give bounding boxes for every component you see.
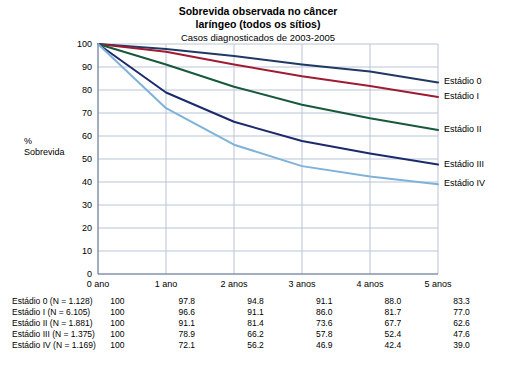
table-cell: 81.7 [379, 307, 448, 318]
plot-area-wrapper: 01020304050607080901000 ano1 ano2 anos3 … [0, 0, 516, 300]
series-label: Estádio 0 [444, 76, 482, 86]
y-tick-label: 70 [82, 108, 92, 118]
x-tick-label: 5 anos [424, 279, 452, 289]
x-tick-label: 3 anos [288, 279, 316, 289]
table-cell: 100 [104, 340, 172, 351]
x-tick-label: 0 ano [87, 279, 110, 289]
table-row: Estádio 0 (N = 1.128)10097.894.891.188.0… [10, 296, 516, 307]
series-label: Estádio IV [444, 178, 485, 188]
table-cell: 73.6 [310, 318, 379, 329]
table-cell: 91.1 [173, 318, 242, 329]
y-tick-label: 40 [82, 177, 92, 187]
series-line [98, 44, 438, 184]
y-tick-label: 10 [82, 246, 92, 256]
y-tick-label: 30 [82, 200, 92, 210]
table-row: Estádio II (N = 1.881)10091.181.473.667.… [10, 318, 516, 329]
table-row: Estádio IV (N = 1.169)10072.156.246.942.… [10, 340, 516, 351]
table-cell: 81.4 [241, 318, 310, 329]
table-cell: 97.8 [173, 296, 242, 307]
y-tick-label: 20 [82, 223, 92, 233]
table-cell: 46.9 [310, 340, 379, 351]
series-line [98, 44, 438, 130]
x-tick-label: 4 anos [356, 279, 384, 289]
table-row-label: Estádio II (N = 1.881) [10, 318, 104, 329]
y-tick-label: 60 [82, 131, 92, 141]
series-line [98, 44, 438, 97]
table-cell: 57.8 [310, 329, 379, 340]
table-cell: 47.6 [447, 329, 516, 340]
y-tick-label: 100 [77, 39, 92, 49]
table-cell: 94.8 [241, 296, 310, 307]
table-cell: 66.2 [241, 329, 310, 340]
table-cell: 88.0 [379, 296, 448, 307]
table-cell: 62.6 [447, 318, 516, 329]
series-label: Estádio III [444, 159, 484, 169]
chart-figure: Sobrevida observada no câncer laríngeo (… [0, 0, 516, 374]
table-row: Estádio III (N = 1.375)10078.966.257.852… [10, 329, 516, 340]
table-cell: 72.1 [173, 340, 242, 351]
table-row-label: Estádio IV (N = 1.169) [10, 340, 104, 351]
table-cell: 52.4 [379, 329, 448, 340]
table-cell: 42.4 [379, 340, 448, 351]
table-cell: 39.0 [447, 340, 516, 351]
table-cell: 77.0 [447, 307, 516, 318]
table-cell: 67.7 [379, 318, 448, 329]
table-cell: 83.3 [447, 296, 516, 307]
x-tick-label: 2 anos [220, 279, 248, 289]
table-row-label: Estádio 0 (N = 1.128) [10, 296, 104, 307]
y-tick-label: 50 [82, 154, 92, 164]
table-cell: 96.6 [173, 307, 242, 318]
table-cell: 100 [104, 329, 172, 340]
y-tick-label: 80 [82, 85, 92, 95]
table-cell: 91.1 [310, 296, 379, 307]
series-label: Estádio II [444, 124, 482, 134]
data-table: 0 ano1 ano2 anos3 anos4 anos5 anosEstádi… [10, 296, 516, 351]
table-cell: 56.2 [241, 340, 310, 351]
series-label: Estádio I [444, 91, 479, 101]
table-cell: 78.9 [173, 329, 242, 340]
series-line [98, 44, 438, 165]
table-cell: 100 [104, 318, 172, 329]
table-row-label: Estádio III (N = 1.375) [10, 329, 104, 340]
chart-svg: 01020304050607080901000 ano1 ano2 anos3 … [0, 0, 516, 300]
table-cell: 100 [104, 296, 172, 307]
table-row-label: Estádio I (N = 6.105) [10, 307, 104, 318]
table-cell: 91.1 [241, 307, 310, 318]
table-row: Estádio I (N = 6.105)10096.691.186.081.7… [10, 307, 516, 318]
table-cell: 86.0 [310, 307, 379, 318]
table-cell: 100 [104, 307, 172, 318]
y-tick-label: 90 [82, 62, 92, 72]
x-tick-label: 1 ano [155, 279, 178, 289]
y-tick-label: 0 [87, 269, 92, 279]
